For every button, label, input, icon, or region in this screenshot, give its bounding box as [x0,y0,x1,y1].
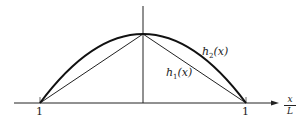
x-axis-arrow-icon [271,101,279,106]
x-axis-label: xL [284,95,296,116]
right-tick-label: 1 [242,106,249,117]
h1-label: h1(x) [166,67,192,81]
h2-label: h2(x) [202,46,228,60]
diagram: h2(x) h1(x) 1 1 xL [0,0,304,121]
left-tick-label: 1 [36,106,43,117]
diagram-svg [0,0,304,121]
